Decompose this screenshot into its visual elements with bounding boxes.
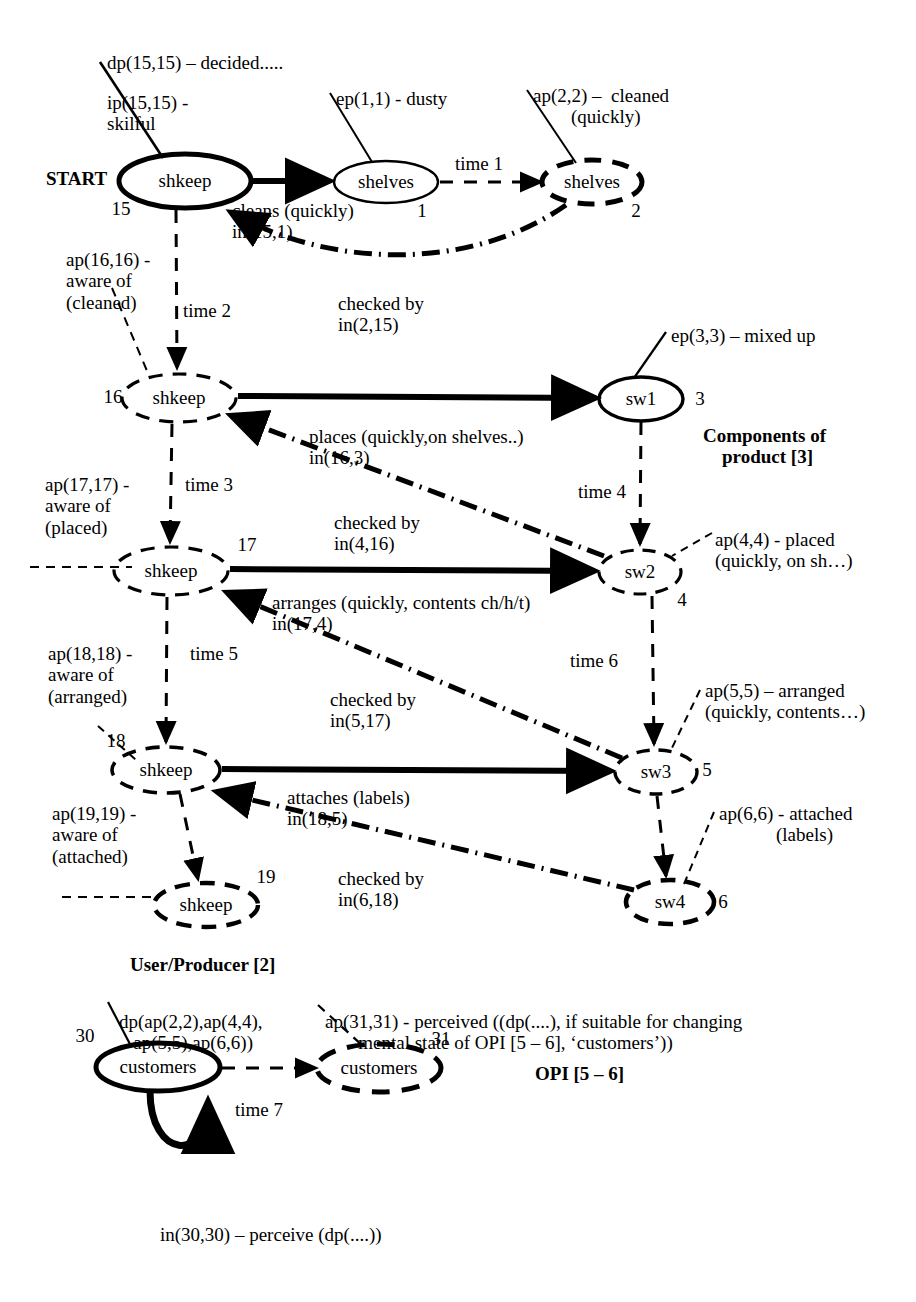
annotation-ap-6-6: ap(6,6) - attached (labels) [719, 803, 852, 846]
edge-label-time-1: time 1 [455, 153, 503, 174]
edge-label-checked-by-3: checked by in(5,17) [330, 689, 416, 732]
node-number-2: 2 [631, 200, 641, 222]
edge-label-arranges: arranges (quickly, contents ch/h/t) in(1… [272, 592, 530, 635]
edge-time6-4-to-5 [652, 596, 654, 744]
annotation-ap-5-5: ap(5,5) – arranged (quickly, contents…) [705, 680, 865, 723]
annotation-dp-ap-set: dp(ap(2,2),ap(4,4), ap(5,5),ap(6,6)) [119, 1011, 263, 1054]
edge-time3-16-to-17 [170, 424, 172, 542]
edge-time4-3-to-4 [640, 422, 641, 544]
leader-ap66 [684, 812, 714, 884]
edge-label-time-2: time 2 [183, 300, 231, 321]
annotation-ap-2-2: ap(2,2) – cleaned (quickly) [533, 85, 669, 128]
edge-time5-17-to-18 [166, 597, 167, 742]
edge-time2-15-to-16 [176, 210, 177, 368]
node-number-17: 17 [238, 534, 257, 556]
annotation-ap-16-16: ap(16,16) - aware of (cleaned) [66, 249, 150, 313]
node-number-18: 18 [107, 730, 126, 752]
node-label-customers-30[interactable]: customers [119, 1056, 196, 1078]
edge-label-time-3: time 3 [185, 474, 233, 495]
group-label-components: Components of product [3] [703, 425, 826, 468]
edge-label-time-7: time 7 [235, 1099, 283, 1120]
node-number-15: 15 [112, 198, 131, 220]
node-label-sw1-3[interactable]: sw1 [626, 388, 657, 410]
node-number-6: 6 [718, 891, 728, 913]
node-label-shkeep-16[interactable]: shkeep [153, 387, 206, 409]
node-number-16: 16 [104, 386, 123, 408]
leader-ep33 [634, 332, 666, 378]
edge-label-time-5: time 5 [190, 643, 238, 664]
action-edges [222, 181, 608, 771]
edge-label-time-6: time 6 [570, 650, 618, 671]
annotation-ap-31-31: ap(31,31) - perceived ((dp(....), if sui… [325, 1011, 742, 1054]
node-label-shkeep-15[interactable]: shkeep [159, 170, 212, 192]
node-number-5: 5 [702, 759, 712, 781]
node-label-shelves-1[interactable]: shelves [358, 171, 414, 193]
node-label-shkeep-18[interactable]: shkeep [140, 759, 193, 781]
node-label-shkeep-17[interactable]: shkeep [145, 560, 198, 582]
edge-label-attaches: attaches (labels) in(18,5) [287, 787, 410, 830]
annotation-ep-1-1: ep(1,1) - dusty [336, 88, 447, 109]
node-label-shelves-2[interactable]: shelves [564, 171, 620, 193]
checked-by-edges [218, 205, 634, 890]
node-label-sw3-5[interactable]: sw3 [641, 761, 672, 783]
edge-label-cleans: cleans (quickly) in(15,1) [232, 200, 354, 243]
edge-arranges-17-to-4 [230, 569, 592, 571]
group-label-user-producer: User/Producer [2] [130, 954, 275, 975]
node-label-shkeep-19[interactable]: shkeep [180, 894, 233, 916]
annotation-ep-3-3: ep(3,3) – mixed up [671, 325, 816, 346]
edge-label-checked-by-4: checked by in(6,18) [338, 868, 424, 911]
edge-label-checked-by-2: checked by in(4,16) [334, 512, 420, 555]
self-loop-edges [150, 1091, 208, 1145]
edge-label-time-4: time 4 [578, 481, 626, 502]
start-label: START [46, 168, 107, 189]
leader-ap55 [670, 690, 700, 752]
annotation-dp-15-15: dp(15,15) – decided..... [107, 52, 283, 73]
annotation-ap-19-19: ap(19,19) - aware of (attached) [52, 803, 136, 867]
annotation-ap-17-17: ap(17,17) - aware of (placed) [45, 474, 129, 538]
node-number-1: 1 [417, 200, 427, 222]
annotation-ip-15-15: ip(15,15) - skilful [107, 92, 188, 135]
edge-time7-18-to-19 [180, 794, 198, 879]
edge-5-to-6 [657, 796, 666, 876]
edge-places-16-to-3 [238, 396, 593, 398]
node-number-4: 4 [677, 589, 687, 611]
leader-ap44 [672, 533, 712, 556]
node-number-3: 3 [695, 388, 705, 410]
annotation-ap-18-18: ap(18,18) - aware of (arranged) [48, 643, 132, 707]
node-label-sw4-6[interactable]: sw4 [655, 891, 686, 913]
edge-attaches-18-to-5 [222, 769, 608, 771]
edge-label-places: places (quickly,on shelves..) in(16,3) [309, 426, 524, 469]
group-label-opi: OPI [5 – 6] [535, 1063, 624, 1084]
annotation-ap-4-4: ap(4,4) - placed (quickly, on sh…) [715, 529, 853, 572]
node-label-sw2-4[interactable]: sw2 [625, 561, 656, 583]
diagram-edges-layer [0, 0, 916, 1302]
node-label-customers-31[interactable]: customers [340, 1057, 417, 1079]
node-number-30: 30 [76, 1025, 95, 1047]
diagram-canvas: shkeep 15 shelves 1 shelves 2 shkeep 16 … [0, 0, 916, 1302]
node-number-19: 19 [257, 866, 276, 888]
edge-checkedby-6-to-18 [218, 792, 634, 890]
edge-label-in-30-30: in(30,30) – perceive (dp(....)) [160, 1224, 382, 1245]
edge-self-loop-30 [150, 1091, 208, 1145]
edge-label-checked-by-1: checked by in(2,15) [338, 293, 424, 336]
